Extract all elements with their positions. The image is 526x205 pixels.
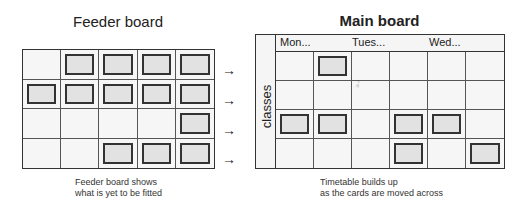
day-label-wed: Wed...	[429, 36, 461, 48]
main-board-title: Main board	[255, 12, 504, 29]
right-arrow-icon: →	[222, 93, 236, 107]
right-arrow-icon: →	[222, 152, 236, 166]
timetable-cell	[352, 110, 390, 139]
classes-label: classes	[259, 83, 274, 131]
timetable-cell	[390, 139, 428, 168]
timetable-card[interactable]	[318, 56, 347, 76]
feeder-card[interactable]	[180, 84, 210, 105]
feeder-cell	[99, 139, 137, 169]
day-label-mon: Mon...	[280, 36, 311, 48]
timetable-card[interactable]	[432, 114, 461, 134]
feeder-caption: Feeder board shows what is yet to be fit…	[75, 177, 162, 199]
feeder-cell	[99, 50, 137, 80]
feeder-cell	[61, 80, 99, 110]
timetable-cell	[466, 110, 504, 139]
feeder-board-title: Feeder board	[22, 13, 214, 30]
timetable-grid	[276, 52, 504, 168]
feeder-caption-line2: what is yet to be fitted	[75, 188, 162, 199]
timetable-cell	[276, 81, 314, 110]
feeder-card[interactable]	[180, 143, 210, 165]
day-header-row: Mon... Tues... Wed...	[276, 35, 504, 52]
timetable-cell	[428, 52, 466, 81]
feeder-cell	[176, 109, 214, 139]
timetable-card[interactable]	[280, 114, 309, 134]
right-arrow-icon: →	[222, 63, 236, 77]
feeder-cell	[23, 50, 61, 80]
day-label-tues: Tues...	[352, 36, 385, 48]
timetable-cell	[276, 110, 314, 139]
timetable-cell	[466, 139, 504, 168]
feeder-card[interactable]	[142, 54, 171, 75]
feeder-card[interactable]	[142, 143, 171, 165]
feeder-cell	[23, 109, 61, 139]
feeder-cell	[23, 80, 61, 110]
feeder-cell	[138, 80, 176, 110]
timetable-cell	[390, 52, 428, 81]
feeder-card[interactable]	[65, 84, 94, 105]
feeder-card[interactable]	[103, 54, 132, 75]
feeder-card[interactable]	[180, 113, 210, 134]
feeder-cell	[176, 139, 214, 169]
timetable-cell	[276, 52, 314, 81]
timetable-cell	[352, 139, 390, 168]
feeder-card[interactable]	[103, 84, 132, 105]
feeder-card[interactable]	[142, 84, 171, 105]
timetable-cell	[314, 110, 352, 139]
main-caption-line1: Timetable builds up	[320, 177, 443, 188]
feeder-cell	[138, 109, 176, 139]
timetable-card[interactable]	[470, 143, 500, 164]
timetable-cell	[428, 81, 466, 110]
timetable-cell	[276, 139, 314, 168]
feeder-cell	[23, 139, 61, 169]
timetable-card[interactable]	[318, 114, 347, 134]
feeder-cell	[99, 109, 137, 139]
feeder-cell	[138, 50, 176, 80]
feeder-cell	[138, 139, 176, 169]
timetable-cell	[390, 81, 428, 110]
feeder-card[interactable]	[103, 143, 132, 165]
timetable-cell	[428, 139, 466, 168]
main-board: classes Mon... Tues... Wed...	[255, 34, 505, 169]
feeder-card[interactable]	[65, 54, 94, 75]
timetable-cell	[314, 139, 352, 168]
timetable-cell	[314, 81, 352, 110]
main-caption-line2: as the cards are moved across	[320, 188, 443, 199]
feeder-board	[22, 49, 215, 169]
timetable-card[interactable]	[394, 143, 423, 164]
timetable-cell	[466, 52, 504, 81]
timetable-cell	[428, 110, 466, 139]
right-arrow-icon: →	[222, 123, 236, 137]
feeder-cell	[61, 109, 99, 139]
feeder-card[interactable]	[180, 54, 210, 75]
feeder-cell	[61, 139, 99, 169]
main-caption: Timetable builds up as the cards are mov…	[320, 177, 443, 199]
feeder-caption-line1: Feeder board shows	[75, 177, 162, 188]
feeder-cell	[99, 80, 137, 110]
feeder-cell	[176, 50, 214, 80]
feeder-card[interactable]	[27, 84, 56, 105]
feeder-cell	[176, 80, 214, 110]
row-label-column: classes	[256, 35, 276, 168]
timetable-card[interactable]	[394, 114, 423, 134]
timetable-cell	[390, 110, 428, 139]
timetable-cell	[466, 81, 504, 110]
timetable-cell	[314, 52, 352, 81]
feeder-cell	[61, 50, 99, 80]
